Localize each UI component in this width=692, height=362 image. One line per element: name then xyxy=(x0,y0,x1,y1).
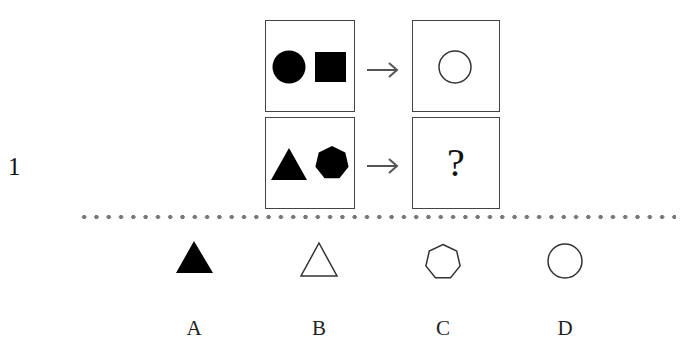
option-c-label[interactable]: C xyxy=(423,318,463,339)
option-d-outline-circle-icon[interactable] xyxy=(0,0,692,362)
option-b-label[interactable]: B xyxy=(299,318,339,339)
option-a-label[interactable]: A xyxy=(174,318,214,339)
option-d-label[interactable]: D xyxy=(545,318,585,339)
